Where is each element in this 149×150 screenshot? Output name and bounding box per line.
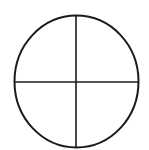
- crosshair-circle-diagram: [0, 0, 149, 150]
